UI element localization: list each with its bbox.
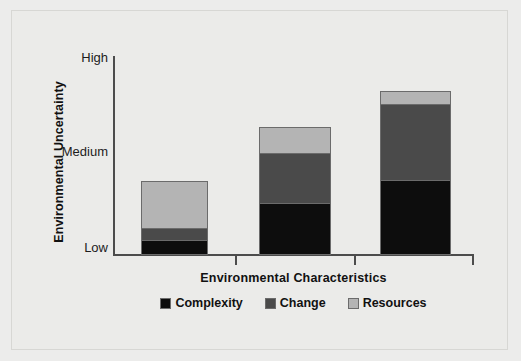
y-axis-line (113, 56, 115, 256)
y-axis-title: Environmental Uncertainty (52, 57, 66, 267)
y-axis-label-text: Medium (62, 145, 108, 158)
x-axis-title: Environmental Characteristics (113, 271, 474, 285)
legend-swatch-icon (348, 298, 359, 309)
legend-item-complexity: Complexity (160, 296, 242, 310)
chart-canvas: HighMediumLow Environmental Uncertainty … (0, 0, 521, 361)
bar-segment-resources (142, 182, 207, 228)
bar-segment-resources (381, 92, 450, 104)
legend-swatch-icon (265, 298, 276, 309)
legend-swatch-icon (160, 298, 171, 309)
bar-segment-change (381, 104, 450, 180)
bar-segment-complexity (142, 240, 207, 254)
bar-segment-complexity (260, 203, 330, 254)
legend-label: Resources (363, 296, 427, 310)
stacked-bar-1 (141, 181, 208, 255)
bar-segment-complexity (381, 180, 450, 254)
stacked-bar-chart: HighMediumLow Environmental Uncertainty … (0, 0, 521, 361)
y-axis-label-text: Low (84, 241, 108, 254)
bar-segment-change (260, 153, 330, 203)
bar-segment-resources (260, 128, 330, 153)
bar-segment-change (142, 228, 207, 241)
x-axis-tick-1 (235, 256, 237, 265)
legend-item-resources: Resources (348, 296, 427, 310)
legend-item-change: Change (265, 296, 326, 310)
stacked-bar-3 (380, 91, 451, 255)
legend-label: Complexity (175, 296, 242, 310)
chart-legend: ComplexityChangeResources (113, 296, 474, 310)
y-axis-label-text: High (81, 51, 108, 64)
stacked-bar-2 (259, 127, 331, 255)
x-axis-tick-2 (354, 256, 356, 265)
legend-label: Change (280, 296, 326, 310)
x-axis-tick-3 (472, 256, 474, 265)
